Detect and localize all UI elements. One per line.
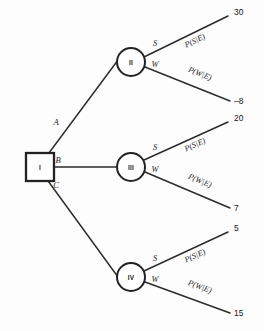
state-label-ii-w: W [152,60,160,69]
outcome-edge-iii-s [144,122,228,160]
branch-label-a: A [52,117,59,127]
payoff-value-iv-w: 15 [234,308,244,318]
decision-node-i-label: I [39,164,41,171]
chance-node-ii-label: II [129,59,133,66]
probability-label-iv-s: P(S|E) [182,247,207,265]
state-label-ii-s: S [153,39,158,48]
probability-label-ii-s: P(S|E) [182,32,207,50]
payoff-value-ii-w: –8 [234,96,244,106]
probability-label-iii-w: P(W|E) [186,171,213,189]
payoff-value-iii-s: 20 [234,113,244,123]
outcome-edge-ii-s [144,16,228,57]
probability-label-ii-w: P(W|E) [186,65,213,83]
decision-tree-canvas: I II III IV A B C S W P(S|E) P(W|E) S W … [0,0,264,331]
probability-label-iii-s: P(S|E) [182,136,207,154]
payoff-value-iii-w: 7 [234,203,239,213]
branch-edge-a [43,60,118,161]
state-label-iv-w: W [152,275,160,284]
state-label-iii-w: W [152,165,160,174]
chance-node-iii-label: III [128,164,134,171]
branch-label-b: B [55,155,61,165]
decision-tree-diagram: I II III IV A B C S W P(S|E) P(W|E) S W … [0,0,264,331]
probability-label-iv-w: P(W|E) [186,278,213,295]
payoff-value-ii-s: 30 [234,7,244,17]
branch-label-c: C [53,180,59,190]
state-label-iii-s: S [153,143,158,152]
outcome-edge-iv-s [144,232,228,271]
state-label-iv-s: S [153,254,158,263]
chance-node-iv-label: IV [128,274,135,281]
payoff-value-iv-s: 5 [234,223,239,233]
